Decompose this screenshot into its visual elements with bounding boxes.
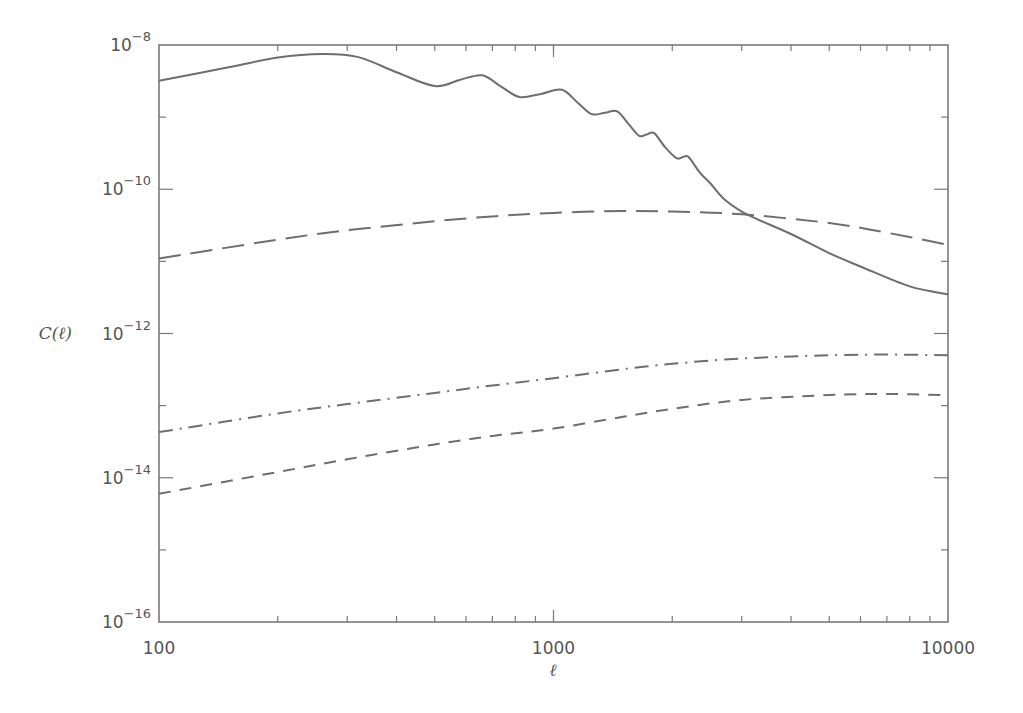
plot-border [159, 45, 948, 622]
x-tick-label: 100 [143, 638, 175, 658]
axis-ticks [159, 45, 948, 622]
series-long-dashed-line [159, 211, 948, 259]
x-tick-label: 1000 [532, 638, 575, 658]
x-axis-label: ℓ [549, 660, 556, 680]
y-tick-label: 10−12 [102, 318, 151, 344]
y-tick-label: 10−16 [102, 606, 151, 632]
y-tick-label: 10−10 [102, 173, 151, 199]
series-short-dashed-line [159, 394, 948, 494]
y-axis-label: C(ℓ) [39, 323, 72, 343]
y-tick-label: 10−8 [110, 29, 151, 55]
series-dash-dot-line [159, 355, 948, 433]
y-tick-label: 10−14 [102, 462, 151, 488]
chart-canvas: 10−810−1010−1210−1410−16 100100010000 ℓ … [0, 0, 1023, 713]
y-axis-tick-labels: 10−810−1010−1210−1410−16 [102, 29, 151, 632]
x-tick-label: 10000 [921, 638, 975, 658]
plot-frame [159, 45, 948, 622]
series-solid-line [159, 54, 948, 294]
series-layer [159, 54, 948, 494]
x-axis-tick-labels: 100100010000 [143, 638, 975, 658]
